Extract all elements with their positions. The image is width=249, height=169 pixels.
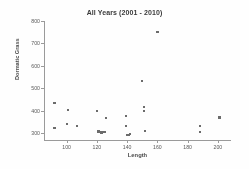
data-point: [156, 31, 158, 33]
y-tick-mark: [41, 43, 44, 44]
x-axis-line: [44, 140, 231, 141]
x-tick-label: 120: [93, 144, 102, 150]
data-point: [103, 131, 105, 133]
data-point: [67, 109, 69, 111]
x-tick-mark: [157, 140, 158, 143]
data-point: [143, 106, 145, 108]
x-tick-label: 140: [123, 144, 132, 150]
x-tick-mark: [188, 140, 189, 143]
data-point: [218, 116, 220, 118]
data-point: [141, 80, 143, 82]
x-tick-label: 160: [153, 144, 162, 150]
data-point: [125, 115, 127, 117]
y-tick-label: 300: [31, 130, 40, 136]
y-tick-mark: [41, 133, 44, 134]
y-tick-mark: [41, 88, 44, 89]
y-tick-label: 700: [31, 40, 40, 46]
x-tick-label: 200: [214, 144, 223, 150]
data-point: [105, 117, 107, 119]
x-tick-label: 180: [183, 144, 192, 150]
data-point: [76, 125, 78, 127]
data-point: [143, 110, 145, 112]
y-tick-label: 500: [31, 85, 40, 91]
x-tick-mark: [218, 140, 219, 143]
data-point: [53, 102, 55, 104]
x-tick-mark: [97, 140, 98, 143]
y-tick-label: 800: [31, 18, 40, 24]
y-tick-mark: [41, 111, 44, 112]
data-point: [129, 133, 131, 135]
data-point: [97, 130, 99, 132]
chart-title: All Years (2001 - 2010): [0, 9, 249, 16]
data-point: [199, 125, 201, 127]
x-axis-label: Length: [44, 152, 231, 158]
data-point: [66, 123, 68, 125]
data-point: [53, 127, 55, 129]
data-point: [125, 125, 127, 127]
x-tick-mark: [127, 140, 128, 143]
y-tick-mark: [41, 66, 44, 67]
data-point: [100, 131, 102, 133]
y-tick-mark: [41, 21, 44, 22]
x-tick-mark: [67, 140, 68, 143]
y-axis-label: Dormatic Grass: [14, 38, 20, 80]
plot-area: 300400500600700800100120140160180200: [44, 21, 230, 140]
data-point: [96, 110, 98, 112]
scatter-chart-figure: All Years (2001 - 2010) Dormatic Grass L…: [0, 0, 249, 169]
data-point: [144, 130, 146, 132]
x-tick-label: 100: [62, 144, 71, 150]
data-point: [199, 131, 201, 133]
y-tick-label: 400: [31, 108, 40, 114]
y-tick-label: 600: [31, 63, 40, 69]
